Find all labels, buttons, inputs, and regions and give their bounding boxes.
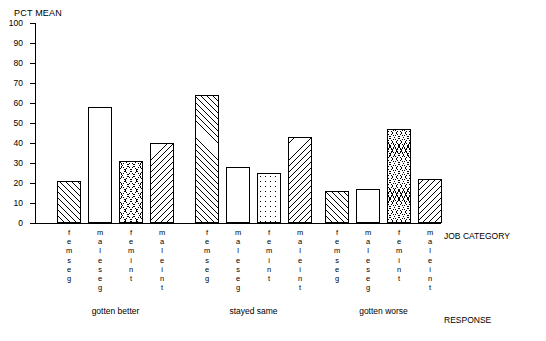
y-axis-tick-label: 0 — [18, 219, 23, 227]
y-axis-tick-label: 50 — [14, 119, 23, 127]
y-axis-tick — [30, 83, 35, 84]
category-label: m a l e s e g — [226, 228, 250, 292]
bar — [195, 95, 219, 223]
group-bracket-label: gotten better — [53, 306, 178, 316]
category-label: f e m i n t — [119, 228, 143, 283]
bar — [288, 137, 312, 223]
y-axis-tick — [30, 103, 35, 104]
plot-area: 1009080706050403020100 — [35, 23, 440, 223]
y-axis-tick-label: 80 — [14, 59, 23, 67]
y-axis-tick-label: 70 — [14, 79, 23, 87]
y-axis-tick — [30, 143, 35, 144]
bar — [226, 167, 250, 223]
category-label: m a l e s e g — [356, 228, 380, 292]
bar — [57, 181, 81, 223]
y-axis-line — [35, 23, 36, 224]
category-label: f e m s e g — [325, 228, 349, 283]
category-label: f e m s e g — [57, 228, 81, 283]
bar — [150, 143, 174, 223]
y-axis-tick — [30, 183, 35, 184]
response-axis-title: RESPONSE — [444, 315, 491, 325]
category-label: f e m s e g — [195, 228, 219, 283]
y-axis-tick — [30, 163, 35, 164]
group-bracket-label: stayed same — [191, 306, 316, 316]
bar — [356, 189, 380, 223]
y-axis-tick-label: 60 — [14, 99, 23, 107]
category-label: f e m i n t — [257, 228, 281, 283]
y-axis-tick-label: 10 — [14, 199, 23, 207]
y-axis-tick-label: 100 — [9, 19, 23, 27]
y-axis-tick — [30, 223, 35, 224]
category-label: m a l e s e g — [88, 228, 112, 292]
bar — [88, 107, 112, 223]
x-axis-line — [35, 223, 441, 224]
bar — [325, 191, 349, 223]
y-axis-tick — [30, 23, 35, 24]
category-label: m a l e i n t — [418, 228, 442, 292]
y-axis-tick — [30, 63, 35, 64]
group-bracket-label: gotten worse — [321, 306, 446, 316]
bar — [418, 179, 442, 223]
y-axis-tick — [30, 123, 35, 124]
bar — [119, 161, 143, 223]
bar — [387, 129, 411, 223]
job-category-axis-title: JOB CATEGORY — [444, 231, 510, 241]
y-axis-tick-label: 90 — [14, 39, 23, 47]
y-axis-tick-label: 40 — [14, 139, 23, 147]
category-label: m a l e i n t — [288, 228, 312, 292]
category-label: m a l e i n t — [150, 228, 174, 292]
y-axis-tick — [30, 43, 35, 44]
category-label: f e m i n t — [387, 228, 411, 283]
y-axis-title: PCT MEAN — [14, 8, 62, 18]
y-axis-tick — [30, 203, 35, 204]
y-axis-tick-label: 30 — [14, 159, 23, 167]
bar — [257, 173, 281, 223]
y-axis-tick-label: 20 — [14, 179, 23, 187]
bar-chart: PCT MEAN 1009080706050403020100 f e m s … — [0, 0, 546, 341]
